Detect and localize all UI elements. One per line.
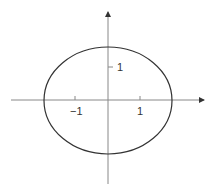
x-tick-label-neg1: −1	[70, 105, 83, 117]
x-tick-label-1: 1	[137, 105, 143, 117]
ellipse-diagram: −1 1 1	[0, 0, 213, 190]
y-tick-label-1: 1	[117, 61, 123, 73]
